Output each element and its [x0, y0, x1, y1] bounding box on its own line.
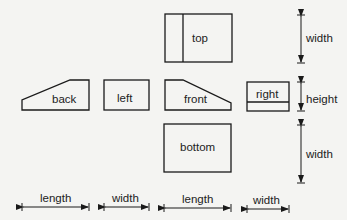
right-view: right [247, 82, 289, 111]
front-view: front [165, 80, 231, 110]
dimension-label: length [182, 193, 213, 205]
dimension-label: width [305, 32, 333, 44]
dimension-label: width [252, 194, 280, 206]
bottom-view: bottom [164, 124, 231, 172]
dimension-right-width: width [247, 194, 289, 213]
dimension-top-width: width [297, 15, 333, 63]
dimension-back-length: length [22, 192, 89, 211]
dimension-left-width: width [104, 192, 149, 211]
top-view-label: top [192, 32, 208, 44]
front-view-label: front [184, 93, 208, 105]
top-view: top [165, 14, 232, 62]
orthographic-views-diagram: top back left front right bottom width h… [0, 0, 347, 220]
bottom-view-label: bottom [180, 141, 215, 153]
back-view-label: back [52, 93, 77, 105]
dimension-front-length: length [164, 193, 231, 212]
back-view: back [22, 80, 89, 110]
dimension-label: width [305, 148, 333, 160]
left-view-label: left [117, 92, 133, 104]
dimension-bottom-width: width [297, 125, 333, 183]
dimension-label: width [111, 192, 139, 204]
dimension-label: length [40, 192, 71, 204]
dimension-label: height [306, 93, 338, 105]
right-view-label: right [256, 88, 279, 100]
left-view: left [104, 80, 149, 110]
dimension-height: height [297, 82, 338, 111]
